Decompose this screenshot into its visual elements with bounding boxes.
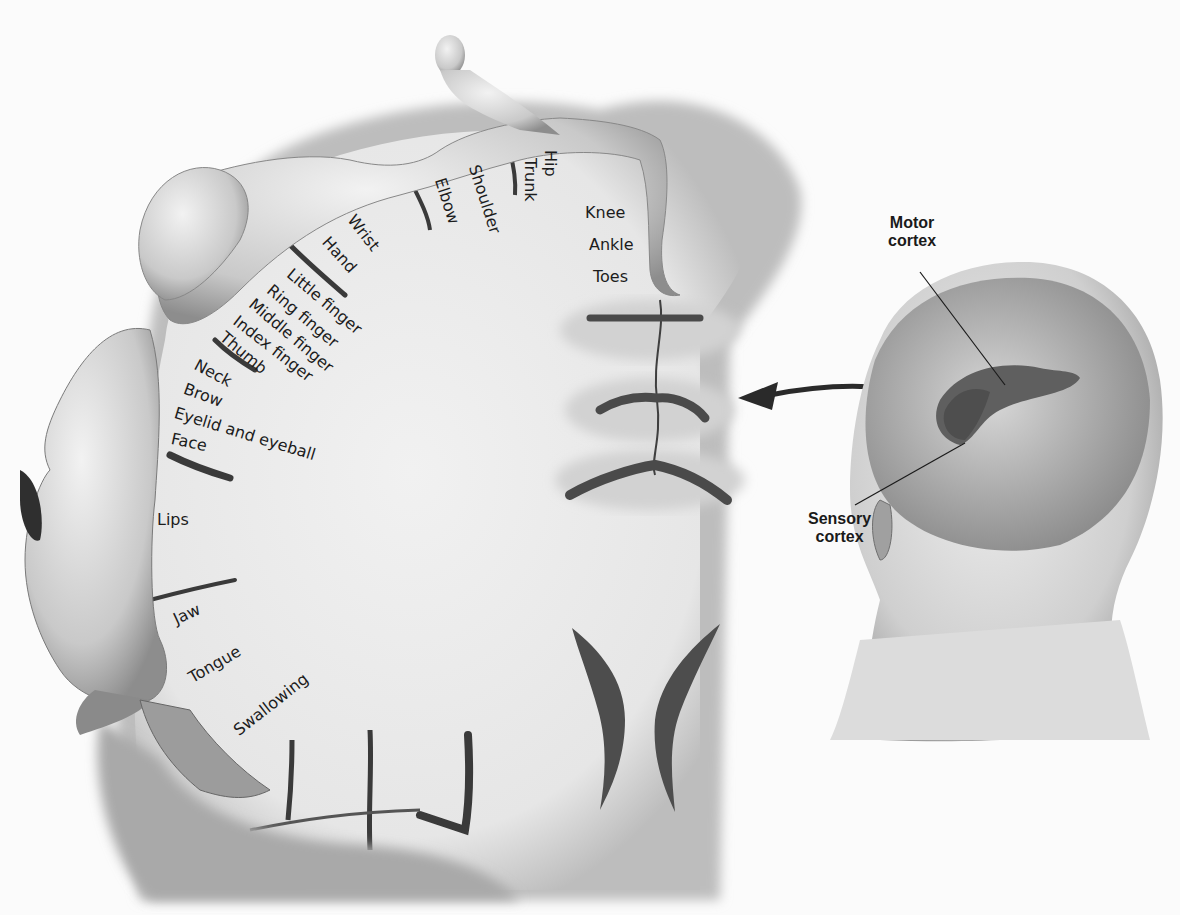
label-trunk: Trunk (522, 158, 538, 202)
head-illustration (830, 262, 1163, 741)
illustration (0, 0, 1180, 915)
motor-cortex-line2: cortex (888, 232, 936, 250)
motor-cortex-line1: Motor (888, 214, 936, 232)
homunculus-figure: Hip Trunk Shoulder Elbow Knee Ankle Toes… (0, 0, 1180, 915)
label-toes: Toes (593, 269, 628, 285)
label-knee: Knee (585, 205, 625, 221)
label-lips: Lips (157, 512, 189, 528)
sensory-cortex-label: Sensory cortex (808, 510, 871, 547)
arrow-head-icon (738, 382, 778, 410)
sensory-cortex-line2: cortex (808, 528, 871, 546)
label-ankle: Ankle (589, 237, 634, 253)
sensory-cortex-line1: Sensory (808, 510, 871, 528)
motor-cortex-label: Motor cortex (888, 214, 936, 251)
label-hip: Hip (542, 150, 558, 177)
